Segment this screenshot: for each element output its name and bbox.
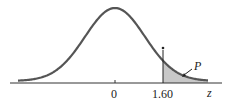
normal-distribution-diagram: 0 1.60 z P: [0, 0, 231, 106]
bell-curve: [18, 8, 208, 81]
axis-label-z: z: [207, 87, 212, 99]
tick-label-zero: 0: [111, 88, 117, 100]
marker-dot: [162, 47, 165, 50]
area-label-p: P: [194, 60, 201, 72]
p-pointer-arrow: [184, 69, 192, 75]
tick-label-critical: 1.60: [152, 88, 173, 100]
